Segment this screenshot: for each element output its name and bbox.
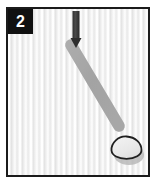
figure-frame: 2: [6, 7, 150, 177]
step-number-badge: 2: [8, 9, 33, 34]
illustration-panel: 2: [0, 0, 158, 188]
egg-shaped-object: [111, 136, 141, 158]
diagonal-tool: [71, 45, 119, 126]
